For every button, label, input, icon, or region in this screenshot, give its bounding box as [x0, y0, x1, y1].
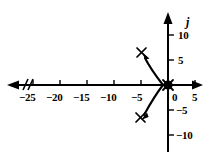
imaginary-axis-tick-label--10: −10	[176, 130, 193, 141]
imaginary-axis-tick-label--5: −5	[176, 105, 187, 116]
pole-at-origin-marker	[163, 80, 173, 90]
real-axis-tick-label--20: −20	[46, 92, 63, 103]
real-axis-tick-label-0: 0	[172, 92, 177, 103]
imaginary-axis-tick-label-5: 5	[178, 55, 183, 66]
root-locus-figure: j −25 −20 −15 −10 −5 0 5 10 5 −5 −10	[0, 0, 211, 166]
imaginary-axis-tick-label-10: 10	[178, 30, 189, 41]
root-locus-curves	[144, 58, 163, 115]
real-axis-tick-label--10: −10	[100, 92, 117, 103]
plot-canvas	[0, 0, 211, 166]
real-axis-left-arrowhead	[7, 81, 19, 90]
real-axis-tick-label--5: −5	[131, 92, 142, 103]
real-axis-tick-label-5: 5	[192, 92, 197, 103]
real-axis-right-arrowhead	[192, 81, 203, 90]
real-axis-tick-label--25: −25	[19, 92, 36, 103]
imaginary-axis-arrowhead	[164, 12, 173, 24]
root-locus-upper-branch	[145, 58, 163, 85]
real-axis-tick-label--15: −15	[73, 92, 90, 103]
root-locus-lower-branch	[144, 85, 163, 115]
imaginary-axis-label: j	[186, 16, 189, 28]
locus-end-upper-x-marker	[137, 48, 146, 57]
